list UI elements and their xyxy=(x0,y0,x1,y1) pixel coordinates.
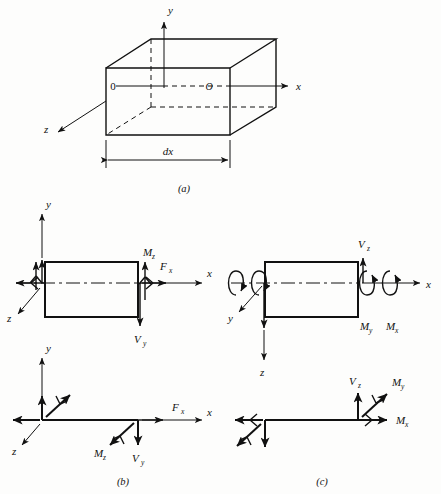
panel-b-bottom-Fx-label: F xyxy=(171,401,179,413)
panel-b-bottom-y-label: y xyxy=(45,342,51,354)
panel-b-right-Mz-sublabel: z xyxy=(151,252,155,261)
panel-b-right-Fx-sublabel: x xyxy=(168,266,173,275)
panel-c-bottom-My-sublabel: y xyxy=(400,382,405,391)
panel-c-left-face-loads: y z xyxy=(227,271,266,378)
panel-b-x-label: x xyxy=(206,267,212,279)
panel-c-bottom-group: V z M y M x (c) xyxy=(235,375,409,488)
panel-c-bottom-left-loads xyxy=(235,414,265,447)
panel-b-y-label: y xyxy=(45,198,51,210)
panel-c-bottom-Mx-sublabel: x xyxy=(404,420,409,429)
panel-c-right-Vz-sublabel: z xyxy=(366,244,370,253)
panel-a-dx-dimension: dx xyxy=(106,140,230,168)
panel-b-right-Vy-sublabel: y xyxy=(142,339,147,348)
panel-a-origin-O-label: O xyxy=(205,81,212,92)
panel-b-bottom-Vy-sublabel: y xyxy=(140,458,145,467)
panel-a-group: 0 O y x z dx (a) xyxy=(43,4,301,195)
panel-b-top-group: y x z xyxy=(6,198,212,348)
panel-c-y-axis xyxy=(239,286,262,312)
panel-c-right-Vz-label: V xyxy=(358,238,366,250)
panel-b-element-body xyxy=(45,262,138,317)
panel-a-z-label: z xyxy=(43,123,49,135)
panel-c-bottom-Vz-sublabel: z xyxy=(357,381,361,390)
panel-c-z-label: z xyxy=(259,366,265,378)
panel-b-bottom-right-loads: F x M z V y xyxy=(93,401,185,467)
panel-a-z-axis xyxy=(58,101,106,132)
panel-c-bottom-right-My-double-arrow xyxy=(362,394,387,417)
panel-b-right-Vy-label: V xyxy=(134,333,142,345)
panel-b-bottom-Fx-sublabel: x xyxy=(180,407,185,416)
panel-c-right-My-sublabel: y xyxy=(368,326,373,335)
panel-a-dx-label: dx xyxy=(163,145,174,157)
panel-b-caption: (b) xyxy=(117,476,130,488)
panel-b-z-label: z xyxy=(6,312,12,324)
panel-b-bottom-x-label: x xyxy=(206,406,212,418)
panel-b-bottom-left-Mz-double-arrow xyxy=(46,395,70,417)
panel-c-right-Mx-sublabel: x xyxy=(394,326,399,335)
panel-b-bottom-z-label: z xyxy=(11,445,17,457)
panel-c-element-body xyxy=(265,262,358,317)
panel-b-left-face-loads: z xyxy=(6,260,44,324)
panel-a-y-label: y xyxy=(167,4,173,16)
panel-b-bottom-group: y x z F x M z V y (b) xyxy=(11,342,212,488)
panel-b-bottom-Vy-label: V xyxy=(132,452,140,464)
panel-c-bottom-left-My-double-arrow xyxy=(237,424,261,446)
panel-a-x-label: x xyxy=(295,80,301,92)
panel-c-bottom-Vz-label: V xyxy=(349,375,357,387)
panel-b-bottom-left-loads: z xyxy=(11,395,70,457)
panel-b-bottom-right-Mz-double-arrow xyxy=(110,423,134,445)
panel-b-right-face-loads: M z F x V y xyxy=(134,246,173,348)
figure-canvas: 0 O y x z dx (a) y x xyxy=(0,0,441,494)
panel-b-right-Fx-label: F xyxy=(159,260,167,272)
panel-c-y-label: y xyxy=(227,312,233,324)
figure-svg: 0 O y x z dx (a) y x xyxy=(0,0,441,494)
panel-b-z-axis xyxy=(18,288,40,314)
panel-c-x-label: x xyxy=(425,278,431,290)
panel-c-top-group: x y z V z M y M x xyxy=(227,238,431,378)
panel-c-caption: (c) xyxy=(316,476,328,488)
panel-a-origin-zero-label: 0 xyxy=(110,80,116,92)
panel-b-bottom-z-axis xyxy=(22,424,40,445)
panel-c-bottom-right-loads: V z M y M x xyxy=(349,375,409,429)
panel-a-box xyxy=(106,39,276,135)
panel-c-right-face-loads: V z M y M x xyxy=(358,238,399,335)
panel-a-caption: (a) xyxy=(178,183,191,195)
panel-b-bottom-Mz-sublabel: z xyxy=(102,453,106,462)
